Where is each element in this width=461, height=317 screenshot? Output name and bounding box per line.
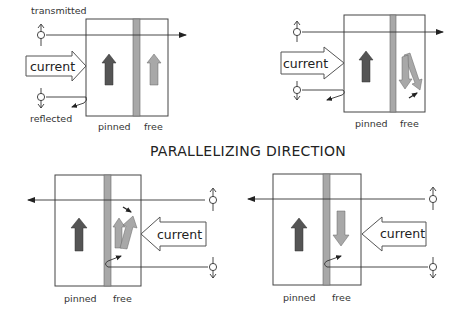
- current-label: current: [157, 227, 202, 242]
- spin-up-symbol-icon: [209, 188, 216, 211]
- pinned-label: pinned: [64, 293, 97, 304]
- current-label: current: [30, 59, 75, 74]
- free-label: free: [332, 292, 351, 303]
- spacer-layer: [390, 15, 396, 112]
- spin-up-symbol-icon: [293, 21, 300, 42]
- spin-down-symbol-icon: [37, 88, 44, 108]
- pinned-label: pinned: [283, 292, 316, 303]
- pinned-label: pinned: [355, 118, 388, 129]
- spin-down-symbol-icon: [429, 257, 436, 278]
- spin-up-symbol-icon: [429, 187, 436, 210]
- page-title: PARALLELIZING DIRECTION: [150, 143, 346, 159]
- free-label: free: [113, 293, 132, 304]
- device-box: [273, 174, 361, 285]
- spacer-layer: [133, 19, 140, 116]
- spacer-layer: [104, 175, 111, 286]
- current-label: current: [283, 56, 328, 71]
- free-label: free: [400, 118, 419, 129]
- spin-down-symbol-icon: [293, 81, 300, 100]
- current-label: current: [380, 226, 425, 241]
- spacer-layer: [323, 174, 330, 285]
- reflected-line: [302, 90, 344, 100]
- reflected-label: reflected: [30, 113, 72, 124]
- pinned-label: pinned: [98, 121, 131, 132]
- free-label: free: [144, 121, 163, 132]
- spin-up-symbol-icon: [37, 24, 44, 46]
- transmitted-label: transmitted: [31, 5, 87, 16]
- reflected-line: [46, 97, 87, 107]
- spin-down-symbol-icon: [209, 257, 216, 278]
